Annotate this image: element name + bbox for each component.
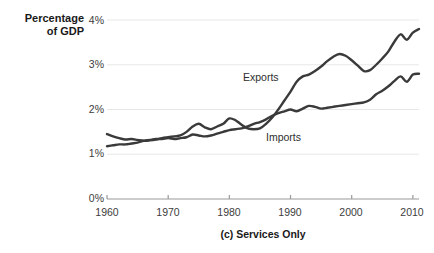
services-only-line-chart: Percentage of GDP 4% 3% 2% 1% 0% 1960 19… (0, 0, 434, 253)
x-tick-2000: 2000 (331, 206, 371, 218)
y-axis-title-line2: of GDP (47, 25, 84, 37)
y-tick-4: 4% (78, 14, 104, 26)
series-line-exports (107, 29, 419, 141)
y-axis-title-line1: Percentage (25, 12, 84, 24)
x-tick-1970: 1970 (148, 206, 188, 218)
y-tick-3: 3% (78, 58, 104, 70)
x-tick-1980: 1980 (209, 206, 249, 218)
chart-caption: (c) Services Only (107, 228, 419, 240)
x-tick-2010: 2010 (392, 206, 432, 218)
x-tick-1990: 1990 (270, 206, 310, 218)
y-axis-title: Percentage of GDP (6, 12, 84, 38)
y-tick-2: 2% (78, 103, 104, 115)
y-tick-1: 1% (78, 147, 104, 159)
x-tick-1960: 1960 (87, 206, 127, 218)
y-tick-0: 0% (78, 192, 104, 204)
series-label-imports: Imports (266, 131, 301, 143)
series-label-exports: Exports (243, 71, 279, 83)
